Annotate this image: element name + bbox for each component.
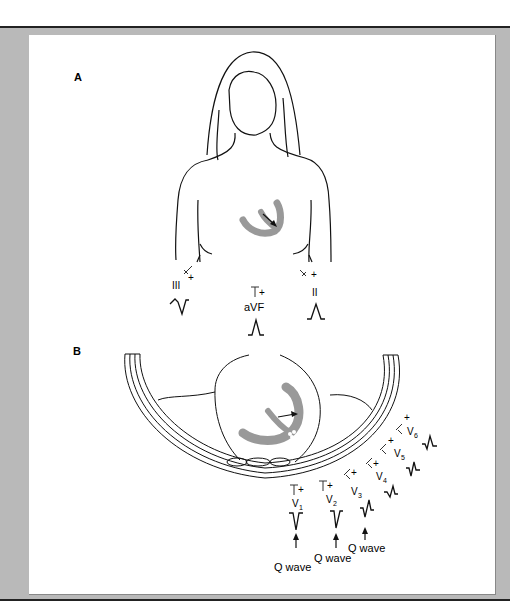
- svg-text:+: +: [373, 458, 379, 469]
- heart-illustration-a: [243, 203, 281, 233]
- lead-v6: + V 6: [396, 412, 437, 449]
- svg-text:5: 5: [401, 454, 405, 461]
- svg-text:+: +: [351, 467, 357, 478]
- svg-text:+: +: [298, 484, 304, 495]
- svg-text:6: 6: [414, 432, 418, 439]
- svg-text:+: +: [388, 435, 394, 446]
- svg-text:V: V: [376, 471, 383, 482]
- svg-text:4: 4: [383, 477, 387, 484]
- svg-text:+: +: [404, 412, 410, 423]
- svg-text:1: 1: [299, 504, 303, 511]
- lead-iii: III +: [170, 266, 194, 314]
- ecg-diagram: A III + + aV: [0, 0, 523, 616]
- lead-v2: + V 2 Q wave: [314, 480, 351, 564]
- lead-ii: + II: [300, 269, 325, 319]
- svg-text:V: V: [326, 494, 333, 505]
- q-wave-label: Q wave: [274, 561, 311, 573]
- svg-text:V: V: [407, 426, 414, 437]
- svg-text:V: V: [351, 486, 358, 497]
- svg-text:3: 3: [358, 492, 362, 499]
- svg-text:aVF: aVF: [244, 301, 264, 313]
- svg-text:+: +: [188, 272, 194, 283]
- lead-v4: + V 4: [366, 458, 398, 497]
- svg-text:II: II: [312, 287, 318, 298]
- chest-cross-section: [125, 354, 400, 478]
- lead-v1: + V 1 Q wave: [274, 484, 311, 573]
- svg-text:V: V: [292, 498, 299, 509]
- svg-text:III: III: [172, 280, 180, 291]
- lead-avf: + aVF: [244, 287, 265, 335]
- panel-b-label: B: [73, 345, 81, 357]
- q-wave-label: Q wave: [314, 552, 351, 564]
- heart-illustration-b: [243, 387, 299, 441]
- lead-v5: + V 5: [380, 435, 420, 476]
- q-wave-label: Q wave: [348, 542, 385, 554]
- panel-a-label: A: [74, 71, 82, 83]
- svg-text:V: V: [394, 448, 401, 459]
- svg-text:+: +: [311, 269, 317, 280]
- svg-text:2: 2: [333, 500, 337, 507]
- svg-text:+: +: [327, 480, 333, 491]
- svg-text:+: +: [259, 287, 265, 298]
